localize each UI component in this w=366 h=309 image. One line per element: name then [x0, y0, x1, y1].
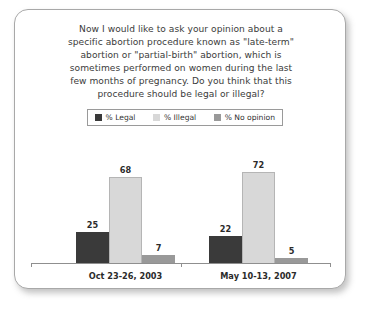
bar-column[interactable]: 5: [275, 136, 308, 264]
legend-swatch-no-opinion: [214, 114, 221, 121]
bar-chart-plot-area: 2568722725: [31, 136, 331, 264]
legend-item-legal: % Legal: [95, 113, 135, 122]
bar-value-label: 22: [209, 224, 242, 234]
x-axis-category-label: Oct 23-26, 2003: [76, 271, 175, 281]
question-line: abortion or "partial-birth" abortion, wh…: [31, 49, 331, 62]
legend-item-no-opinion: % No opinion: [214, 113, 275, 122]
x-axis-tick: [181, 263, 182, 267]
bar-group-bars: 25687: [76, 136, 175, 264]
bar-value-label: 7: [142, 243, 175, 253]
chart-card: Now I would like to ask your opinion abo…: [14, 9, 346, 289]
bar-group: 25687: [76, 136, 175, 264]
bar-group-bars: 22725: [209, 136, 308, 264]
bar-column[interactable]: 72: [242, 136, 275, 264]
bar[interactable]: [242, 172, 275, 264]
question-text: Now I would like to ask your opinion abo…: [31, 23, 331, 102]
chart-legend: % Legal % Illegal % No opinion: [87, 109, 283, 126]
legend-label-illegal: % Illegal: [164, 113, 196, 122]
bar-value-label: 72: [242, 160, 275, 170]
bar[interactable]: [209, 236, 242, 264]
legend-swatch-legal: [95, 114, 102, 121]
legend-label-legal: % Legal: [106, 113, 136, 122]
bar-column[interactable]: 7: [142, 136, 175, 264]
legend-swatch-illegal: [153, 114, 160, 121]
bar[interactable]: [109, 177, 142, 264]
x-axis-tick: [330, 263, 331, 267]
question-line: procedure should be legal or illegal?: [31, 88, 331, 101]
bar-value-label: 25: [76, 220, 109, 230]
bar-column[interactable]: 25: [76, 136, 109, 264]
question-line: Now I would like to ask your opinion abo…: [31, 23, 331, 36]
x-axis-tick: [31, 263, 32, 267]
legend-item-illegal: % Illegal: [153, 113, 196, 122]
question-line: few months of pregnancy. Do you think th…: [31, 75, 331, 88]
bar-value-label: 68: [109, 165, 142, 175]
bar-column[interactable]: 68: [109, 136, 142, 264]
bar-group: 22725: [209, 136, 308, 264]
bar[interactable]: [76, 232, 109, 264]
question-line: specific abortion procedure known as "la…: [31, 36, 331, 49]
bar-column[interactable]: 22: [209, 136, 242, 264]
question-line: sometimes performed on women during the …: [31, 62, 331, 75]
bar-value-label: 5: [275, 246, 308, 256]
x-axis-category-label: May 10-13, 2007: [209, 271, 308, 281]
legend-label-no-opinion: % No opinion: [225, 113, 275, 122]
